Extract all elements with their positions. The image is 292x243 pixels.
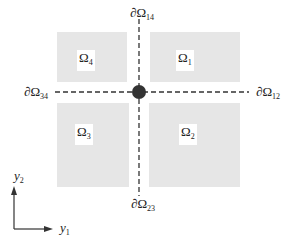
boundary-label-symbol: ∂Ω (130, 5, 146, 20)
boundary-label-subscript: 23 (147, 204, 155, 213)
boundary-label-subscript: 12 (272, 92, 280, 101)
axis-y2-arrow-icon (11, 186, 17, 195)
boundary-label-23: ∂Ω23 (131, 197, 155, 216)
axis-y1-arrow-icon (44, 226, 53, 232)
boundary-label-12: ∂Ω12 (256, 85, 280, 104)
axis-label-y1: y1 (60, 220, 70, 237)
junction-point-icon (132, 85, 146, 99)
axis-label-subscript: 2 (20, 176, 24, 185)
boundary-label-subscript: 14 (146, 13, 154, 22)
boundary-label-symbol: ∂Ω (256, 84, 272, 99)
boundary-label-14: ∂Ω14 (130, 6, 154, 25)
boundary-label-subscript: 34 (40, 92, 48, 101)
boundary-label-symbol: ∂Ω (24, 84, 40, 99)
boundary-label-symbol: ∂Ω (131, 196, 147, 211)
axis-label-y2: y2 (14, 168, 24, 185)
boundary-label-34: ∂Ω34 (24, 85, 48, 104)
axis-label-subscript: 1 (66, 228, 70, 237)
